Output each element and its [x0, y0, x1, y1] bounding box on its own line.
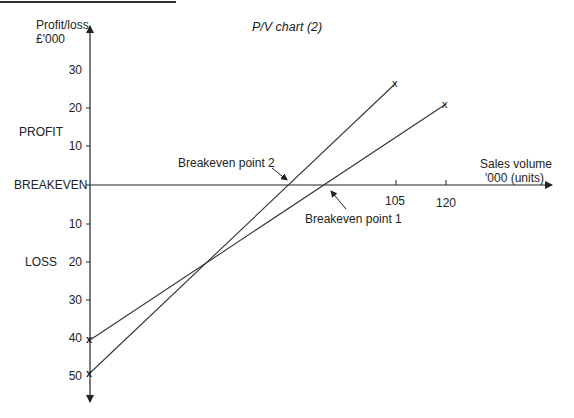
y-axis-label-line2: £'000 — [36, 32, 65, 46]
pv-chart — [0, 0, 574, 418]
x-ticks — [396, 180, 446, 185]
region-label-profit: PROFIT — [19, 125, 63, 139]
y-tick-label-10: 10 — [52, 139, 82, 153]
annotation-breakeven-point-2: Breakeven point 2 — [178, 156, 275, 170]
y-tick-label-20: 20 — [52, 101, 82, 115]
x-tick-label-120: 120 — [436, 196, 456, 210]
chart-title: P/V chart (2) — [252, 20, 322, 34]
y-axis-label-line1: Profit/loss — [36, 18, 89, 32]
breakeven-point-1-arrow — [331, 191, 346, 209]
x-marker-line2-start: x — [86, 366, 92, 380]
x-marker-line2-end: x — [392, 76, 398, 90]
x-axis-label-line2: '000 (units) — [485, 171, 544, 185]
y-tick-label-loss-50: 50 — [52, 369, 82, 383]
series-line-2 — [90, 83, 396, 373]
x-marker-line1-end: x — [442, 97, 448, 111]
y-tick-label-loss-10: 10 — [52, 217, 82, 231]
y-tick-label-30: 30 — [52, 63, 82, 77]
y-tick-label-loss-40: 40 — [52, 331, 82, 345]
y-tick-label-loss-30: 30 — [52, 293, 82, 307]
x-axis-label-line1: Sales volume — [480, 157, 552, 171]
x-marker-line1-start: x — [86, 332, 92, 346]
region-label-loss: LOSS — [25, 255, 57, 269]
annotation-breakeven-point-1: Breakeven point 1 — [305, 212, 402, 226]
x-tick-label-105: 105 — [385, 194, 405, 208]
region-label-breakeven: BREAKEVEN — [14, 178, 87, 192]
